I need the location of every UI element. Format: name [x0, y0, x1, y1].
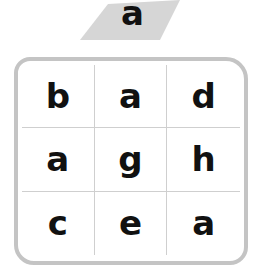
letter-grid-frame: b a d a g h c e a — [14, 57, 248, 265]
grid-cell[interactable]: g — [95, 128, 168, 191]
grid-cell[interactable]: c — [22, 192, 95, 255]
grid-cell[interactable]: a — [167, 192, 240, 255]
grid-cell[interactable]: d — [167, 65, 240, 128]
grid-cell[interactable]: b — [22, 65, 95, 128]
grid-cell[interactable]: a — [95, 65, 168, 128]
grid-cell[interactable]: h — [167, 128, 240, 191]
grid-cell[interactable]: e — [95, 192, 168, 255]
target-letter: a — [80, 0, 185, 34]
grid-cell[interactable]: a — [22, 128, 95, 191]
target-letter-area: a — [80, 0, 185, 42]
letter-grid: b a d a g h c e a — [22, 65, 240, 255]
